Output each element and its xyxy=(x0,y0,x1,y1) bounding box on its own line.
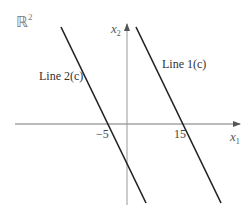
line-2-label: Line 2(c) xyxy=(39,70,83,82)
line-1-label: Line 1(c) xyxy=(162,58,206,70)
tick-label-neg5: −5 xyxy=(96,128,109,140)
space-label-exponent: 2 xyxy=(28,12,33,22)
diagram-canvas xyxy=(0,0,252,216)
x-axis-label: x1 xyxy=(230,130,240,146)
line-1 xyxy=(136,27,221,203)
y-axis-label: x2 xyxy=(111,22,121,38)
space-label-base: ℝ xyxy=(16,14,28,30)
y-axis-subscript: 2 xyxy=(117,29,121,38)
line-2 xyxy=(61,27,146,203)
x-axis-subscript: 1 xyxy=(236,137,240,146)
space-label: ℝ2 xyxy=(16,13,33,30)
tick-label-15: 15 xyxy=(174,128,186,140)
